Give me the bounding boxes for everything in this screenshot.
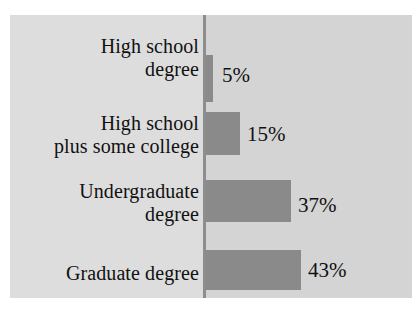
bar-value-label: 37% bbox=[298, 195, 337, 216]
bar-category-label: High school plus some college bbox=[54, 112, 199, 158]
bar-undergraduate-degree bbox=[206, 180, 291, 222]
bar-category-label: High school degree bbox=[101, 35, 199, 81]
bar-chart-panel: High school degree 5% High school plus s… bbox=[10, 15, 412, 298]
bar-category-label: Graduate degree bbox=[66, 262, 199, 285]
bar-high-school-degree bbox=[206, 55, 213, 102]
bar-category-label: Undergraduate degree bbox=[79, 180, 199, 226]
bar-value-label: 5% bbox=[222, 65, 250, 86]
bar-row: Graduate degree 43% bbox=[10, 250, 412, 298]
bar-value-label: 43% bbox=[308, 260, 347, 281]
bar-row: Undergraduate degree 37% bbox=[10, 180, 412, 240]
bar-high-school-plus-some-college bbox=[206, 112, 240, 155]
bar-row: High school degree 5% bbox=[10, 35, 412, 102]
bar-row: High school plus some college 15% bbox=[10, 112, 412, 172]
bar-graduate-degree bbox=[206, 250, 301, 290]
bar-value-label: 15% bbox=[247, 124, 286, 145]
